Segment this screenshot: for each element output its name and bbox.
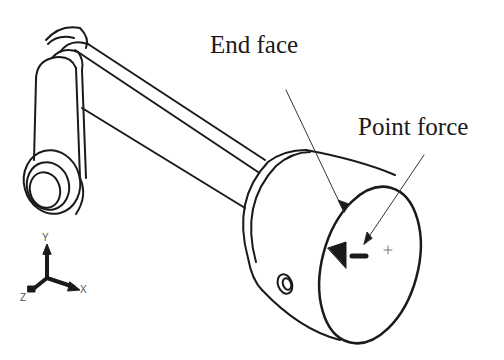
piston xyxy=(243,150,395,340)
point-force-label: Point force xyxy=(358,114,468,139)
z-axis-label: Z xyxy=(20,293,26,303)
end-face xyxy=(303,175,437,354)
point-force-leader xyxy=(364,155,424,244)
y-axis-label: Y xyxy=(42,233,49,243)
mechanism-diagram: End face Point force Y X Z xyxy=(0,0,504,360)
x-axis-label: X xyxy=(80,285,87,295)
point-force-arrow xyxy=(328,242,366,268)
crank-bearing xyxy=(17,144,88,220)
connecting-rod xyxy=(60,42,265,208)
axis-triad xyxy=(28,244,80,292)
end-face-label: End face xyxy=(210,32,298,57)
